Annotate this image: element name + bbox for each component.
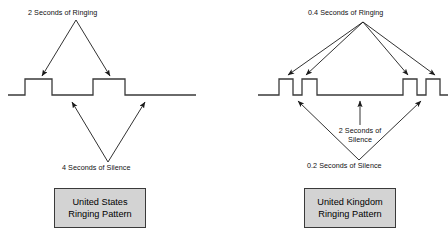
- uk-long-silence-label-line2: Silence: [318, 135, 402, 144]
- us-ringing-arrows: [42, 20, 110, 76]
- uk-pattern-box-line2: Ringing Pattern: [318, 208, 381, 221]
- us-pattern-box-line1: United States: [72, 196, 127, 209]
- uk-ringing-label: 0.4 Seconds of Ringing: [308, 8, 383, 17]
- us-pattern-box: United States Ringing Pattern: [54, 188, 146, 228]
- us-ringing-label: 2 Seconds of Ringing: [28, 8, 97, 17]
- uk-pattern-box: United Kingdom Ringing Pattern: [304, 188, 396, 228]
- uk-long-silence-label: 2 Seconds of Silence: [318, 126, 402, 144]
- ringing-pattern-diagram: 2 Seconds of Ringing 4 Seconds of Silenc…: [0, 0, 448, 237]
- us-silence-arrows: [72, 102, 145, 162]
- uk-waveform: [258, 79, 448, 95]
- uk-ringing-arrows: [288, 22, 435, 75]
- us-waveform: [8, 79, 196, 95]
- uk-short-silence-label: 0.2 Seconds of Silence: [307, 161, 382, 170]
- us-silence-label: 4 Seconds of Silence: [62, 163, 131, 172]
- uk-long-silence-label-line1: 2 Seconds of: [318, 126, 402, 135]
- us-pattern-box-line2: Ringing Pattern: [68, 208, 131, 221]
- uk-pattern-box-line1: United Kingdom: [317, 196, 382, 209]
